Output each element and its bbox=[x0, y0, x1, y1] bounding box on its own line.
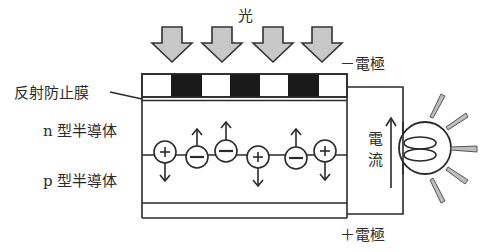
electron-icon bbox=[285, 129, 307, 169]
light-arrow-icon bbox=[202, 27, 242, 62]
hole-icon bbox=[247, 146, 269, 186]
p-type-semiconductor-label: p 型半導体 bbox=[43, 172, 117, 190]
negative-electrode-label: －電極 bbox=[340, 55, 385, 73]
light-arrow-icon bbox=[253, 27, 293, 62]
current-label-char-1: 電 bbox=[366, 130, 384, 149]
electron-icon bbox=[186, 129, 208, 168]
light-ray-icon bbox=[446, 167, 468, 184]
light-ray-icon bbox=[430, 178, 445, 203]
light-arrows bbox=[152, 27, 342, 62]
current-label-char-2: 流 bbox=[366, 151, 384, 170]
n-type-semiconductor-label: n 型半導体 bbox=[43, 122, 117, 140]
electrode-finger bbox=[288, 74, 319, 97]
electrode-finger bbox=[230, 74, 260, 97]
light-ray-icon bbox=[451, 146, 477, 152]
positive-electrode-label: ＋電極 bbox=[340, 226, 385, 244]
light-ray-icon bbox=[446, 113, 468, 130]
electrode-finger bbox=[171, 74, 202, 97]
light-ray-icon bbox=[430, 94, 445, 118]
light-arrow-icon bbox=[302, 27, 342, 62]
light-bulb-icon bbox=[399, 94, 477, 203]
hole-icon bbox=[154, 141, 176, 181]
electron-icon bbox=[215, 122, 237, 162]
light-label: 光 bbox=[238, 7, 253, 25]
anti-reflection-film-label: 反射防止膜 bbox=[14, 84, 89, 102]
carriers bbox=[154, 122, 336, 186]
hole-icon bbox=[314, 140, 336, 180]
light-arrow-icon bbox=[152, 27, 192, 62]
